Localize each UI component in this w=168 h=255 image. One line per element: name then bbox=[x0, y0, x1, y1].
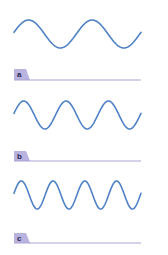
panel-label-a: a bbox=[17, 70, 21, 80]
panel-a bbox=[14, 20, 141, 80]
panel-label-b: b bbox=[17, 152, 22, 162]
waves-diagram bbox=[0, 0, 168, 255]
panel-c bbox=[14, 181, 141, 243]
sine-wave-a bbox=[14, 20, 141, 48]
sine-wave-b bbox=[14, 101, 141, 129]
panel-b bbox=[14, 101, 141, 161]
sine-wave-c bbox=[14, 181, 141, 209]
panel-label-c: c bbox=[17, 234, 21, 244]
